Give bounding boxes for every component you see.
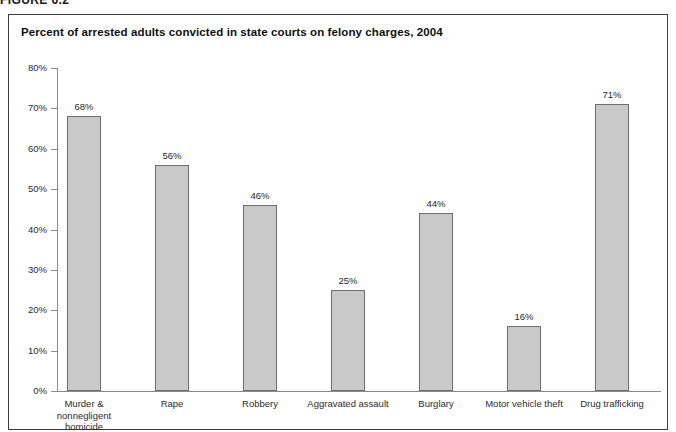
y-axis-tick-label: 10%: [9, 346, 47, 356]
y-axis-tick: [51, 310, 57, 311]
y-axis-tick-label: 30%: [9, 265, 47, 275]
y-axis-tick-label: 20%: [9, 305, 47, 315]
x-axis-category-label: Drug trafficking: [568, 398, 656, 410]
y-axis-tick: [51, 351, 57, 352]
category-label-line: Drug trafficking: [568, 398, 656, 410]
figure-number-header: FIGURE 6.2: [0, 0, 120, 7]
x-axis-category-label: Aggravated assault: [304, 398, 392, 410]
bar: [331, 290, 365, 391]
category-label-line: Aggravated assault: [304, 398, 392, 410]
bar-value-label: 16%: [494, 312, 554, 322]
y-axis-tick: [51, 391, 57, 392]
y-axis-tick: [51, 68, 57, 69]
y-axis-line: [57, 68, 58, 392]
y-axis-tick-label-text: 60%: [13, 144, 47, 153]
category-label-line: Robbery: [216, 398, 304, 410]
x-axis-category-label: Robbery: [216, 398, 304, 410]
y-axis-tick-label-text: 0%: [13, 386, 47, 395]
y-axis-tick-label: 50%: [9, 184, 47, 194]
category-label-line: Burglary: [392, 398, 480, 410]
bar-value-label: 44%: [406, 199, 466, 209]
bar: [243, 205, 277, 391]
y-axis-tick-label-text: 50%: [13, 184, 47, 193]
y-axis-tick-label: 40%: [9, 225, 47, 235]
y-axis-tick-label-text: 70%: [13, 103, 47, 112]
bar: [155, 165, 189, 391]
bar-value-label: 56%: [142, 151, 202, 161]
y-axis-tick-label-text: 20%: [13, 305, 47, 314]
figure-frame: Percent of arrested adults convicted in …: [8, 14, 668, 430]
bar-value-label: 25%: [318, 276, 378, 286]
bar-chart-plot-area: 80%70%60%50%40%30%20%10%0% 68%56%46%25%4…: [9, 15, 669, 431]
bar-value-label: 46%: [230, 191, 290, 201]
bar-value-label: 68%: [54, 102, 114, 112]
y-axis-tick-label-text: 80%: [13, 63, 47, 72]
x-axis-category-label: Burglary: [392, 398, 480, 410]
x-axis-category-label: Motor vehicle theft: [480, 398, 568, 410]
y-axis-tick: [51, 230, 57, 231]
bar: [419, 213, 453, 391]
bar: [507, 326, 541, 391]
category-label-line: Motor vehicle theft: [480, 398, 568, 410]
category-label-line: nonnegligent: [40, 410, 128, 422]
y-axis-tick-label: 0%: [9, 386, 47, 396]
y-axis-tick-label: 80%: [9, 63, 47, 73]
y-axis-tick-label-text: 40%: [13, 225, 47, 234]
bar-value-label: 71%: [582, 90, 642, 100]
x-axis-line: [57, 391, 661, 392]
bar: [595, 104, 629, 391]
category-label-line: Murder &: [40, 398, 128, 410]
y-axis-tick-label-text: 10%: [13, 346, 47, 355]
x-axis-category-label: Murder &nonnegligenthomicide: [40, 398, 128, 432]
x-axis-category-label: Rape: [128, 398, 216, 410]
category-label-line: homicide: [40, 421, 128, 432]
y-axis-tick-label: 60%: [9, 144, 47, 154]
bar: [67, 116, 101, 391]
y-axis-tick: [51, 189, 57, 190]
y-axis-tick: [51, 270, 57, 271]
y-axis-tick: [51, 149, 57, 150]
y-axis-tick-label: 70%: [9, 103, 47, 113]
category-label-line: Rape: [128, 398, 216, 410]
y-axis-tick-label-text: 30%: [13, 265, 47, 274]
